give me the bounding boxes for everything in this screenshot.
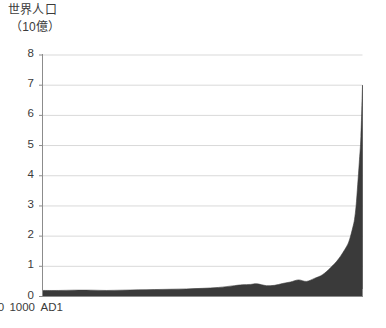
y-tick-label: 0 xyxy=(14,289,34,301)
plot-svg xyxy=(0,0,386,328)
y-tick-label: 3 xyxy=(14,198,34,210)
y-tick-label: 2 xyxy=(14,228,34,240)
x-tick-label: AD1 xyxy=(41,301,63,313)
world-population-area-chart: 世界人口 （10億） 012345678 AD110002000 xyxy=(0,0,386,328)
population-area-series xyxy=(43,85,363,296)
x-tick-label: 1000 xyxy=(9,301,35,313)
y-tick-label: 4 xyxy=(14,168,34,180)
y-tick-label: 8 xyxy=(14,47,34,59)
y-tick-label: 5 xyxy=(14,138,34,150)
y-tick-marks xyxy=(39,55,43,297)
y-tick-label: 7 xyxy=(14,77,34,89)
y-tick-label: 1 xyxy=(14,258,34,270)
gridlines xyxy=(43,55,363,266)
plot-area: 012345678 AD110002000 xyxy=(0,0,386,328)
y-tick-label: 6 xyxy=(14,107,34,119)
x-tick-label: 2000 xyxy=(0,301,4,313)
